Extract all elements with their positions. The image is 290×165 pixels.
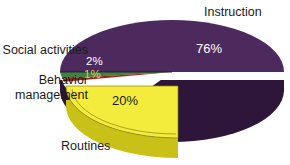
category-label-behavior-management: Behavior management	[0, 73, 88, 103]
value-label-instruction: 76%	[196, 41, 222, 56]
category-label-social-activities: Social activities	[0, 43, 88, 58]
value-label-behavior-management: 1%	[84, 68, 101, 80]
value-label-routines: 20%	[112, 93, 138, 108]
value-label-social-activities: 2%	[86, 55, 103, 67]
pie-chart-figure: Instruction Social activities Behavior m…	[0, 0, 290, 165]
category-label-routines: Routines	[61, 139, 110, 154]
category-label-instruction: Instruction	[204, 5, 262, 20]
